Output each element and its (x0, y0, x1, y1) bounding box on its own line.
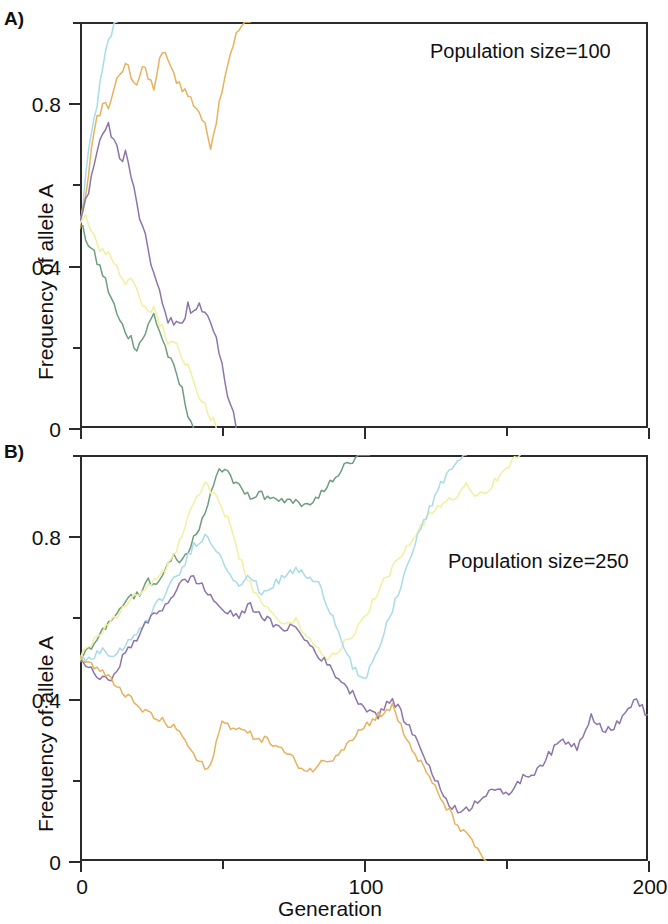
y-minor-tick (73, 347, 80, 349)
y-tick-0.8: 0.8 (69, 103, 80, 105)
panel-a-y-axis-title: Frequency of allele A (34, 184, 58, 380)
panel-b-y-axis-title: Frequency of allele A (34, 636, 58, 832)
series-line-purple (80, 576, 648, 813)
x-tick-200: 200 (648, 861, 650, 872)
x-minor-tick (506, 428, 508, 436)
x-tick-label-200: 200 (632, 875, 667, 899)
panel-a-series-canvas (80, 22, 648, 428)
y-minor-tick (73, 184, 80, 186)
x-tick-label-0: 0 (76, 875, 88, 899)
y-tick-label-0: 0 (49, 418, 61, 442)
y-tick-label-0.8: 0.8 (32, 526, 61, 550)
y-tick-0: 0 (69, 861, 80, 863)
y-tick-label-0.8: 0.8 (32, 93, 61, 117)
x-tick-label-100: 100 (348, 875, 383, 899)
y-minor-tick (73, 617, 80, 619)
y-tick-0: 0 (69, 428, 80, 430)
x-tick-100: 100 (364, 861, 366, 872)
x-tick-0: 0 (80, 861, 82, 872)
y-tick-label-0: 0 (49, 851, 61, 875)
panel-a-label: A) (4, 8, 24, 30)
panel-b-plot: 00.40.80100200 Population size=250 (80, 455, 648, 861)
y-tick-0.4: 0.4 (69, 699, 80, 701)
panel-a-plot: 00.40.8 Population size=100 (80, 22, 648, 428)
panel-a-population-annotation: Population size=100 (430, 40, 611, 63)
series-line-green (80, 226, 194, 428)
series-line-green (80, 455, 370, 660)
x-minor-tick (506, 861, 508, 869)
y-tick-label-0.4: 0.4 (32, 689, 61, 713)
x-tick-200 (648, 428, 650, 439)
series-line-purple (80, 122, 236, 428)
y-tick-0.8: 0.8 (69, 536, 80, 538)
panel-b-series-canvas (80, 455, 648, 861)
y-minor-tick (73, 22, 80, 24)
x-tick-100 (364, 428, 366, 439)
series-line-cyan (80, 455, 466, 678)
y-minor-tick (73, 780, 80, 782)
x-minor-tick (222, 861, 224, 869)
panel-b-population-annotation: Population size=250 (448, 550, 629, 573)
panel-b-label: B) (4, 441, 24, 463)
y-tick-0.4: 0.4 (69, 266, 80, 268)
x-axis-title: Generation (0, 897, 660, 921)
x-minor-tick (222, 428, 224, 436)
y-minor-tick (73, 455, 80, 457)
y-tick-label-0.4: 0.4 (32, 256, 61, 280)
x-tick-0 (80, 428, 82, 439)
